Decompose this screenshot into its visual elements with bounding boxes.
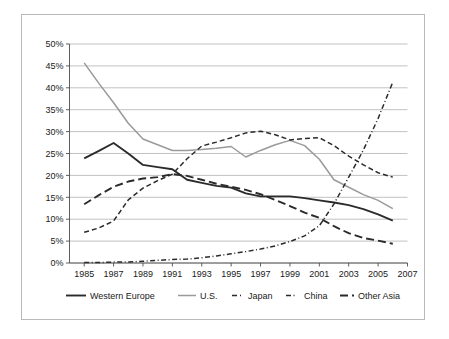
x-tick-label: 1989 <box>133 269 153 279</box>
legend-label-japan: Japan <box>248 291 273 301</box>
y-tick-label: 45% <box>45 61 63 71</box>
x-tick-label: 1991 <box>162 269 182 279</box>
data-series-group <box>84 63 393 263</box>
y-tick-label: 0% <box>50 258 63 268</box>
line-chart: 0%5%10%15%20%25%30%35%40%45%50% 19851987… <box>0 0 449 339</box>
x-tick-label: 1995 <box>221 269 241 279</box>
gridlines-group <box>70 44 408 263</box>
legend-item-western-europe[interactable]: Western Europe <box>66 291 155 301</box>
chart-figure: 0%5%10%15%20%25%30%35%40%45%50% 19851987… <box>0 0 449 339</box>
y-tick-label: 15% <box>45 193 63 203</box>
y-tick-label: 20% <box>45 171 63 181</box>
y-tick-label: 5% <box>50 236 63 246</box>
y-tick-label: 30% <box>45 127 63 137</box>
y-tick-label: 10% <box>45 214 63 224</box>
legend-item-japan[interactable]: Japan <box>232 291 273 301</box>
x-tick-label: 2007 <box>397 269 417 279</box>
chart-legend: Western EuropeU.S.JapanChinaOther Asia <box>66 291 400 301</box>
x-tick-label: 1987 <box>104 269 124 279</box>
y-tick-label: 35% <box>45 105 63 115</box>
x-tick-label: 1993 <box>192 269 212 279</box>
y-tick-label: 40% <box>45 83 63 93</box>
legend-item-china[interactable]: China <box>286 291 328 301</box>
y-tick-label: 25% <box>45 149 63 159</box>
legend-item-u-s[interactable]: U.S. <box>178 291 218 301</box>
legend-label-u-s: U.S. <box>200 291 218 301</box>
x-tick-label: 2005 <box>368 269 388 279</box>
y-tick-label: 50% <box>45 39 63 49</box>
x-axis-tick-labels: 1985198719891991199319951997199920012003… <box>74 269 417 279</box>
x-axis-ticks <box>84 263 407 267</box>
legend-label-western-europe: Western Europe <box>90 291 155 301</box>
legend-label-china: China <box>304 291 328 301</box>
y-axis-tick-labels: 0%5%10%15%20%25%30%35%40%45%50% <box>45 39 63 268</box>
y-axis-ticks <box>66 44 70 263</box>
legend-label-other-asia: Other Asia <box>358 291 400 301</box>
series-line-china <box>84 82 393 262</box>
x-tick-label: 2003 <box>339 269 359 279</box>
x-tick-label: 1985 <box>74 269 94 279</box>
legend-item-other-asia[interactable]: Other Asia <box>340 291 400 301</box>
x-tick-label: 2001 <box>309 269 329 279</box>
x-tick-label: 1999 <box>280 269 300 279</box>
series-line-other-asia <box>84 174 393 244</box>
x-tick-label: 1997 <box>251 269 271 279</box>
